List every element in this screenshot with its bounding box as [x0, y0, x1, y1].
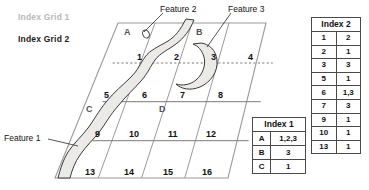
- table-row: C 1: [253, 160, 306, 174]
- index-1-table: Index 1 A 1,2,3 B 3 C 1: [252, 117, 306, 174]
- index-2-header-row: Index 2: [312, 18, 361, 32]
- grid-cell-11: 11: [168, 129, 178, 139]
- index-2-value-5: 3: [336, 99, 361, 113]
- grid-letter-c: C: [86, 104, 93, 114]
- grid-cell-10: 10: [129, 129, 139, 139]
- index-2-value-0: 2: [336, 32, 361, 46]
- grid-cell-9: 9: [95, 129, 100, 139]
- grid-cell-3: 3: [211, 52, 216, 62]
- grid-cell-1: 1: [137, 52, 142, 62]
- index-2-title: Index 2: [312, 18, 361, 32]
- index-2-key-1: 2: [312, 45, 337, 59]
- index-2-key-6: 9: [312, 113, 337, 127]
- index-2-key-4: 6: [312, 86, 337, 100]
- index-1-value-0: 1,2,3: [271, 132, 306, 146]
- index-2-key-0: 1: [312, 32, 337, 46]
- grid-cell-13: 13: [85, 167, 95, 177]
- grid-cell-4: 4: [248, 52, 253, 62]
- index-2-value-6: 1: [336, 113, 361, 127]
- grid-cell-2: 2: [174, 52, 179, 62]
- index-2-value-3: 1: [336, 72, 361, 86]
- index-1-title: Index 1: [253, 118, 306, 132]
- grid-cell-16: 16: [202, 167, 212, 177]
- index-1-key-1: B: [253, 146, 271, 160]
- callout-feature-1: Feature 1: [4, 133, 40, 143]
- index-1-header-row: Index 1: [253, 118, 306, 132]
- callout-feature-2: Feature 2: [160, 4, 196, 14]
- table-row: 10 1: [312, 127, 361, 141]
- index-2-value-1: 1: [336, 45, 361, 59]
- table-row: 3 3: [312, 59, 361, 73]
- table-row: 5 1: [312, 72, 361, 86]
- index-2-key-3: 5: [312, 72, 337, 86]
- table-row: 1 2: [312, 32, 361, 46]
- grid-letter-b: B: [196, 27, 203, 37]
- grid-cell-5: 5: [104, 90, 109, 100]
- grid-cell-15: 15: [163, 167, 173, 177]
- table-row: 7 3: [312, 99, 361, 113]
- grid-letter-d: D: [159, 104, 166, 114]
- index-2-key-7: 10: [312, 127, 337, 141]
- index-1-key-0: A: [253, 132, 271, 146]
- index-1-body: A 1,2,3 B 3 C 1: [253, 132, 306, 174]
- table-row: 6 1,3: [312, 86, 361, 100]
- grid-cell-7: 7: [180, 90, 185, 100]
- index-2-value-4: 1,3: [336, 86, 361, 100]
- index-2-key-8: 13: [312, 140, 337, 154]
- legend-index-grid-1: Index Grid 1: [18, 12, 70, 22]
- callout-feature-3: Feature 3: [228, 4, 264, 14]
- feature-1-shape: [58, 19, 194, 178]
- table-row: A 1,2,3: [253, 132, 306, 146]
- index-2-table: Index 2 1 2 2 1 3 3 5 1 6 1,3: [311, 17, 361, 154]
- index-2-value-8: 1: [336, 140, 361, 154]
- index-2-value-7: 1: [336, 127, 361, 141]
- index-1-key-2: C: [253, 160, 271, 174]
- grid-letter-a: A: [124, 27, 131, 37]
- table-row: 13 1: [312, 140, 361, 154]
- grid-cell-8: 8: [218, 90, 223, 100]
- table-row: B 3: [253, 146, 306, 160]
- grid-cell-14: 14: [124, 167, 134, 177]
- grid-cell-12: 12: [206, 129, 216, 139]
- index-2-body: 1 2 2 1 3 3 5 1 6 1,3 7 3: [312, 32, 361, 154]
- index-2-key-5: 7: [312, 99, 337, 113]
- index-2-value-2: 3: [336, 59, 361, 73]
- feature-3-shape: [176, 43, 217, 89]
- table-row: 2 1: [312, 45, 361, 59]
- diagram-canvas: Index Grid 1 Index Grid 2 Feature 2 Feat…: [0, 0, 369, 190]
- index-1-value-1: 3: [271, 146, 306, 160]
- grid-cell-6: 6: [142, 90, 147, 100]
- table-row: 9 1: [312, 113, 361, 127]
- legend-index-grid-2: Index Grid 2: [18, 34, 70, 44]
- index-2-key-2: 3: [312, 59, 337, 73]
- index-1-value-2: 1: [271, 160, 306, 174]
